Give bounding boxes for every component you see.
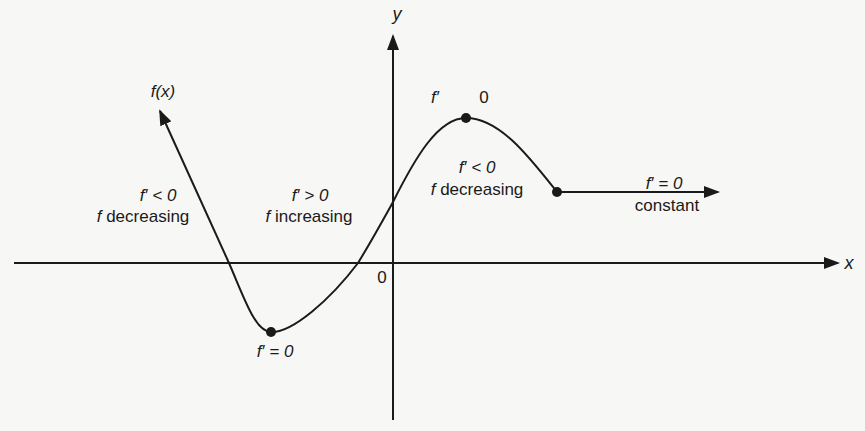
y-axis-label: y — [393, 4, 402, 24]
right-behavior: f decreasing — [431, 180, 524, 200]
right-derivative-condition: f′ < 0 — [459, 158, 496, 178]
plateau-start-point — [552, 187, 562, 197]
constant-label: constant — [635, 196, 699, 216]
curve-label: f(x) — [151, 82, 176, 102]
middle-behavior-text: increasing — [275, 207, 353, 226]
left-behavior: f decreasing — [97, 207, 190, 227]
left-behavior-text: decreasing — [106, 207, 189, 226]
derivative-sign-diagram: y x 0 f(x) f′ < 0 f decreasing f′ > 0 f … — [0, 0, 865, 431]
right-behavior-text: decreasing — [440, 180, 523, 199]
minimum-point — [266, 327, 276, 337]
x-axis-label: x — [845, 253, 854, 273]
origin-label: 0 — [377, 268, 386, 288]
middle-behavior: f increasing — [266, 207, 353, 227]
maximum-label-prefix: f′ — [431, 88, 439, 108]
constant-derivative-condition: f′ = 0 — [646, 174, 683, 194]
minimum-label: f′ = 0 — [257, 342, 294, 362]
maximum-point — [461, 113, 471, 123]
middle-derivative-condition: f′ > 0 — [292, 186, 329, 206]
left-derivative-condition: f′ < 0 — [140, 186, 177, 206]
maximum-label-suffix: 0 — [479, 88, 488, 108]
